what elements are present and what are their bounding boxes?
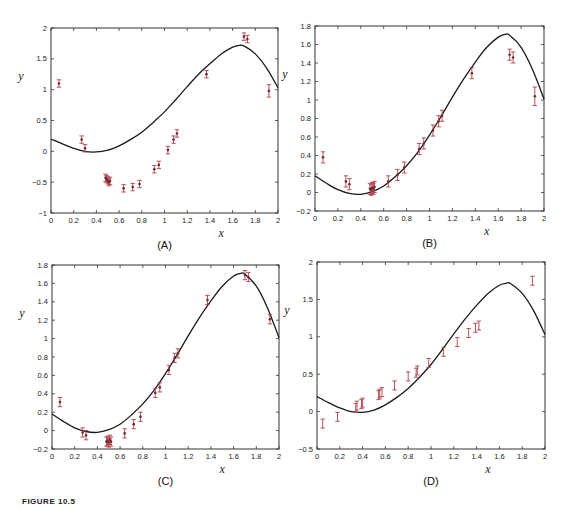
- y-tick-label: 1: [309, 332, 313, 341]
- plot-frame: [317, 262, 545, 449]
- x-tick-label: 0.4: [91, 216, 101, 225]
- y-tick-label: 1.6: [301, 40, 311, 49]
- x-tick-label: 1.4: [471, 452, 481, 461]
- y-tick-label: 1: [43, 85, 47, 94]
- x-tick-label: 0.8: [137, 216, 147, 225]
- plot-frame: [51, 28, 278, 213]
- data-point: [441, 347, 445, 356]
- x-tick-label: 1.2: [183, 452, 193, 461]
- model-curve: [317, 283, 545, 413]
- x-tick-label: 2: [543, 452, 547, 461]
- data-point: [422, 138, 426, 149]
- x-tick-label: 1.6: [494, 452, 504, 461]
- chart-panel-b: 00.20.40.60.811.21.41.61.82−0.200.20.40.…: [281, 22, 546, 250]
- data-point: [507, 49, 511, 60]
- y-tick-label: 0.2: [38, 408, 48, 417]
- x-tick-label: 1.8: [250, 216, 260, 225]
- x-tick-label: 1.2: [447, 214, 457, 223]
- y-tick-label: 1.4: [38, 297, 48, 306]
- x-axis-label: x: [219, 462, 226, 476]
- x-tick-label: 1: [427, 214, 431, 223]
- y-tick-label: 0.5: [37, 116, 47, 125]
- data-point: [80, 428, 84, 437]
- data-point: [321, 152, 325, 163]
- x-tick-label: 2: [542, 214, 546, 223]
- y-tick-label: 2: [309, 258, 313, 267]
- x-tick-label: 1: [429, 452, 433, 461]
- y-tick-label: 1.8: [38, 261, 48, 270]
- x-tick-label: 1.2: [449, 452, 459, 461]
- x-tick-label: 2: [277, 452, 281, 461]
- chart-panel-a: 00.20.40.60.811.21.41.61.82−1−0.500.511.…: [17, 24, 280, 252]
- x-tick-label: 1: [163, 452, 167, 461]
- y-tick-label: −0.5: [298, 445, 313, 454]
- figure-caption: FIGURE 10.5: [22, 497, 76, 506]
- y-tick-label: 0.5: [303, 370, 313, 379]
- x-axis-label: x: [484, 462, 491, 476]
- x-tick-label: 0.4: [357, 452, 367, 461]
- x-tick-label: 0.6: [115, 452, 125, 461]
- y-tick-label: 0.4: [38, 389, 48, 398]
- x-tick-label: 0.8: [403, 452, 413, 461]
- y-tick-label: 2: [43, 24, 47, 33]
- y-tick-label: 0: [309, 407, 313, 416]
- y-tick-label: 0.8: [38, 353, 48, 362]
- data-point: [245, 35, 249, 42]
- data-point: [132, 420, 136, 429]
- data-point: [121, 185, 125, 192]
- data-point: [402, 162, 406, 173]
- panel-label: (D): [423, 475, 438, 487]
- x-tick-label: 0.6: [114, 216, 124, 225]
- data-point: [157, 161, 161, 168]
- data-point: [395, 169, 399, 180]
- x-tick-label: 2: [276, 216, 280, 225]
- x-tick-label: 0.4: [356, 214, 366, 223]
- y-tick-label: 0.8: [301, 114, 311, 123]
- x-tick-label: 0.2: [69, 452, 79, 461]
- data-point: [530, 276, 534, 285]
- data-point: [246, 272, 250, 281]
- data-point: [392, 381, 396, 390]
- data-point: [204, 71, 208, 78]
- data-point: [321, 419, 325, 428]
- model-curve: [52, 273, 279, 433]
- figure-canvas: 00.20.40.60.811.21.41.61.82−1−0.500.511.…: [0, 0, 569, 509]
- data-point: [335, 412, 339, 421]
- y-tick-label: 1.5: [303, 295, 313, 304]
- model-curve: [51, 45, 278, 152]
- x-tick-label: 0: [49, 216, 53, 225]
- y-tick-label: −0.2: [296, 207, 311, 216]
- y-tick-label: 1.2: [38, 316, 48, 325]
- y-tick-label: 1: [44, 334, 48, 343]
- panel-label: (B): [422, 237, 437, 249]
- data-point: [58, 397, 62, 406]
- data-point: [166, 146, 170, 153]
- x-tick-label: 0: [313, 214, 317, 223]
- y-tick-label: −1: [38, 209, 47, 218]
- x-tick-label: 1.4: [206, 452, 216, 461]
- data-point: [57, 80, 61, 87]
- x-tick-label: 0.2: [68, 216, 78, 225]
- y-tick-label: 1.5: [37, 54, 47, 63]
- y-axis-label: y: [283, 303, 290, 317]
- data-point: [466, 329, 470, 338]
- x-tick-label: 1.6: [493, 214, 503, 223]
- y-tick-label: 1: [307, 96, 311, 105]
- x-tick-label: 1.8: [517, 452, 527, 461]
- y-tick-label: 0.4: [301, 151, 311, 160]
- y-tick-label: −0.2: [33, 445, 48, 454]
- y-tick-label: 0.2: [301, 170, 311, 179]
- y-tick-label: 1.8: [301, 22, 311, 31]
- y-tick-label: 0: [43, 147, 47, 156]
- x-tick-label: 1.4: [470, 214, 480, 223]
- y-tick-label: 0.6: [301, 133, 311, 142]
- x-tick-label: 0.8: [138, 452, 148, 461]
- data-point: [242, 33, 246, 40]
- data-point: [344, 176, 348, 187]
- data-point: [79, 136, 83, 143]
- data-point: [138, 412, 142, 421]
- data-point: [267, 85, 271, 97]
- x-tick-label: 0.6: [380, 452, 390, 461]
- x-tick-label: 0.8: [401, 214, 411, 223]
- x-axis-label: x: [218, 226, 225, 240]
